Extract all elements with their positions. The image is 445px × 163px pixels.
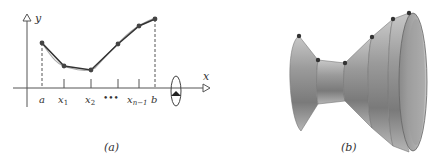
tick-label-ellipsis: •••	[103, 93, 119, 103]
tick-label-b: b	[151, 94, 157, 105]
panel-a-diagram: y x a x1 x2 ••• xn−1	[13, 12, 210, 154]
figure: y x a x1 x2 ••• xn−1	[0, 0, 445, 163]
caption-b: (b)	[341, 141, 357, 154]
tick-label-x2: x2	[85, 94, 95, 107]
tick-label-a: a	[39, 94, 45, 105]
y-axis-label: y	[34, 12, 42, 25]
y-axis-arrow-icon	[23, 14, 31, 21]
x-axis-label: x	[203, 70, 210, 83]
caption-a: (a)	[104, 141, 119, 154]
tick-label-x1: x1	[58, 94, 68, 107]
x-axis-ticks	[64, 79, 139, 88]
panel-b-surface-of-revolution: (b)	[290, 11, 427, 154]
x-axis-arrow-icon	[203, 84, 210, 92]
rotate-about-x-axis-icon	[171, 76, 181, 106]
tick-label-xn-1: xn−1	[127, 94, 147, 107]
